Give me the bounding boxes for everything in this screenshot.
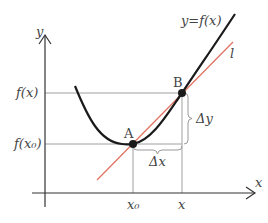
x-tick-label: x (178, 197, 186, 212)
fx-tick-label: f(x) (15, 85, 38, 100)
derivative-diagram: A B y=f(x) l y x f(x) f(x₀) x₀ x Δx Δy (0, 0, 268, 223)
delta-x-brace (133, 146, 182, 154)
x0-tick-label: x₀ (127, 197, 140, 212)
y-axis-label: y (35, 24, 44, 39)
point-a (129, 140, 137, 148)
delta-x-label: Δx (148, 154, 166, 169)
fx0-tick-label: f(x₀) (13, 136, 42, 151)
point-a-label: A (123, 126, 134, 141)
point-b-label: B (173, 75, 183, 90)
delta-y-brace (184, 93, 192, 144)
curve-label: y=f(x) (180, 13, 222, 28)
point-b (178, 89, 186, 97)
x-axis-label: x (255, 175, 263, 190)
delta-y-label: Δy (195, 111, 213, 126)
tangent-label: l (230, 46, 234, 61)
